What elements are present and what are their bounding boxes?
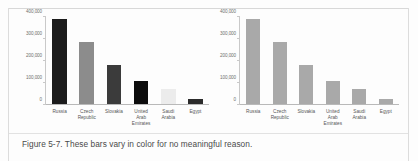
y-tick-mark	[237, 104, 240, 105]
x-tick-label: United Arab Emirates	[128, 109, 155, 127]
y-tick-label: 100,000	[220, 76, 236, 81]
x-axis-line	[45, 104, 209, 105]
bar	[246, 19, 260, 104]
bar-cell	[267, 17, 294, 104]
bar	[299, 65, 313, 104]
bar-cell	[73, 17, 100, 104]
y-tick-label: 400,000	[26, 10, 42, 15]
bar	[107, 65, 122, 104]
x-axis-line	[239, 104, 399, 105]
y-tick-label: 400,000	[220, 10, 236, 15]
bar-cell	[373, 17, 400, 104]
x-tick-label: United Arab Emirates	[320, 109, 347, 127]
x-axis-labels: RussiaCzech RepublicSlovakiaUnited Arab …	[240, 109, 399, 127]
figure-area: 0100,000200,000300,000400,000 RussiaCzec…	[9, 9, 407, 133]
plot-area: 0100,000200,000300,000400,000	[239, 17, 399, 105]
bar	[134, 81, 149, 104]
bar	[326, 81, 340, 104]
bar	[188, 99, 203, 104]
bar-cell	[240, 17, 267, 104]
bar-cell	[346, 17, 373, 104]
x-tick-label: Czech Republic	[73, 109, 100, 127]
bar-chart-varied-colors: 0100,000200,000300,000400,000 RussiaCzec…	[17, 13, 213, 133]
y-tick-label: 0	[40, 98, 42, 103]
document-page: 0100,000200,000300,000400,000 RussiaCzec…	[0, 0, 418, 161]
bar-cell	[293, 17, 320, 104]
y-tick-label: 200,000	[220, 54, 236, 59]
y-tick-label: 100,000	[26, 76, 42, 81]
bar-cell	[100, 17, 127, 104]
bar-series	[240, 17, 399, 104]
y-tick-label: 300,000	[220, 32, 236, 37]
bar	[379, 99, 393, 104]
y-tick-label: 0	[234, 98, 236, 103]
y-tick-label: 200,000	[26, 54, 42, 59]
plot-area: 0100,000200,000300,000400,000	[45, 17, 209, 105]
x-tick-label: Russia	[46, 109, 73, 127]
x-tick-label: Slovakia	[100, 109, 127, 127]
bar-series	[46, 17, 209, 104]
page-rule-right	[408, 8, 409, 161]
bar-cell	[182, 17, 209, 104]
bar	[52, 19, 67, 104]
bar-cell	[155, 17, 182, 104]
bar-cell	[320, 17, 347, 104]
bar	[161, 89, 176, 104]
bar	[352, 89, 366, 104]
bar	[79, 42, 94, 104]
x-tick-label: Russia	[240, 109, 267, 127]
figure-caption: Figure 5-7. These bars vary in color for…	[22, 140, 392, 150]
x-axis-labels: RussiaCzech RepublicSlovakiaUnited Arab …	[46, 109, 209, 127]
x-tick-label: Saudi Arabia	[346, 109, 373, 127]
bar	[273, 42, 287, 104]
x-tick-label: Saudi Arabia	[155, 109, 182, 127]
bar-cell	[128, 17, 155, 104]
x-tick-label: Egypt	[373, 109, 400, 127]
x-tick-label: Slovakia	[293, 109, 320, 127]
y-tick-mark	[43, 104, 46, 105]
bar-chart-uniform-color: 0100,000200,000300,000400,000 RussiaCzec…	[213, 13, 403, 133]
bar-cell	[46, 17, 73, 104]
figure-caption-divider	[9, 133, 408, 134]
x-tick-label: Czech Republic	[267, 109, 294, 127]
x-tick-label: Egypt	[182, 109, 209, 127]
y-tick-label: 300,000	[26, 32, 42, 37]
